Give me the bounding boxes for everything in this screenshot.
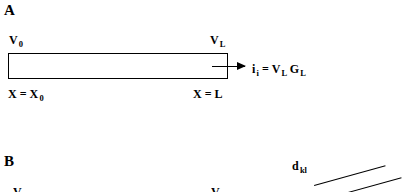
label-v0-text: V0	[9, 34, 23, 48]
label-x-equals-l-text: X=L	[193, 88, 223, 100]
current-arrow-head	[237, 62, 246, 70]
clipped-label-v-right: V	[211, 186, 225, 192]
panel-a-letter: A	[4, 3, 15, 18]
diagonal-line-upper	[314, 165, 386, 186]
figure-container: A V0 VL ii=VLGL X=X0 X=L B dkl	[0, 0, 402, 192]
label-x-equals-l: X=L	[193, 85, 223, 101]
cable-rectangle	[8, 53, 228, 79]
current-equation: ii=VLGL	[252, 60, 306, 77]
clipped-label-v-left: V	[13, 186, 27, 192]
label-dkl: dkl	[292, 157, 307, 174]
label-dkl-text: dkl	[292, 160, 307, 174]
diagonal-line-lower	[330, 177, 402, 192]
label-vl-text: VL	[210, 34, 226, 48]
label-x-equals-x0: X=X0	[8, 85, 44, 102]
current-equation-text: ii=VLGL	[252, 63, 306, 77]
panel-b-letter: B	[4, 154, 14, 169]
label-x-equals-x0-text: X=X0	[8, 88, 44, 102]
label-vl: VL	[210, 31, 226, 48]
label-v0: V0	[9, 31, 23, 48]
